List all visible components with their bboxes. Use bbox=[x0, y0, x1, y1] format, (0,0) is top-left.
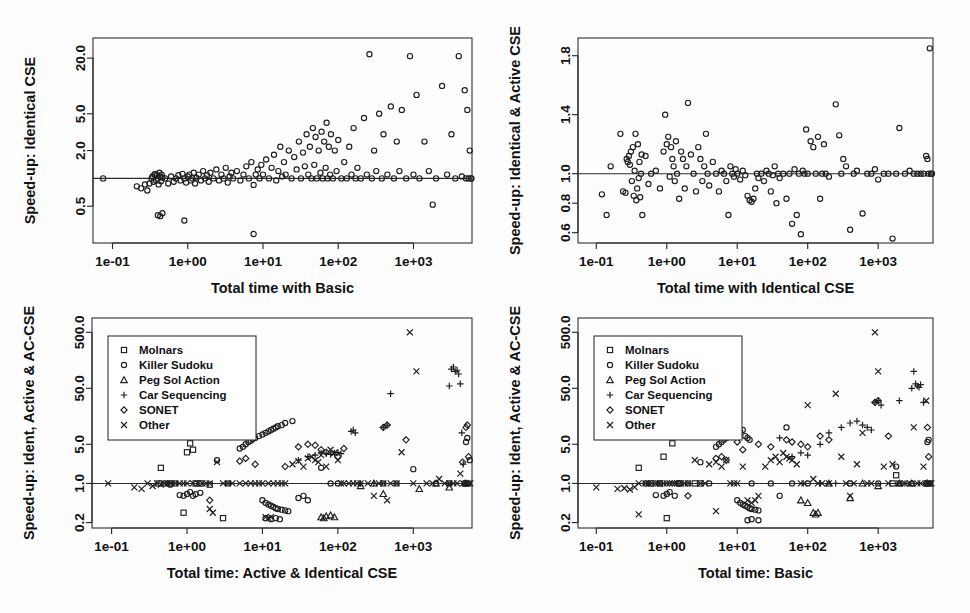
x-tick-label: 1e+03 bbox=[394, 254, 432, 269]
legend-label: Peg Sol Action bbox=[625, 374, 706, 386]
y-axis-title: Speed-up: Identical & Active CSE bbox=[507, 26, 523, 255]
x-axis-title: Total time with Identical CSE bbox=[657, 280, 854, 296]
y-tick-label: 0.5 bbox=[74, 196, 89, 215]
y-axis-title: Speed-up: Ident, Active & AC-CSE bbox=[507, 306, 523, 540]
x-tick-label: 1e-01 bbox=[579, 254, 614, 269]
data-points bbox=[599, 46, 934, 241]
legend[interactable]: MolnarsKiller SudokuPeg Sol ActionCar Se… bbox=[594, 336, 742, 440]
panel-bottom-left: 1e-011e+001e+011e+021e+03Total time: Act… bbox=[0, 306, 485, 613]
y-tick-label: 1.0 bbox=[559, 164, 574, 183]
panel-top-right: 1e-011e+001e+011e+021e+03Total time with… bbox=[485, 0, 970, 306]
x-tick-label: 1e+00 bbox=[648, 254, 686, 269]
x-tick-label: 1e-01 bbox=[94, 539, 129, 554]
x-axis-title: Total time: Basic bbox=[698, 565, 813, 581]
y-tick-label: 0.8 bbox=[559, 193, 574, 212]
chart-bottom-right: 1e-011e+001e+011e+021e+03Total time: Bas… bbox=[485, 306, 970, 613]
y-tick-label: 2.0 bbox=[74, 141, 89, 160]
x-axis: 1e-011e+001e+011e+021e+03 bbox=[94, 528, 432, 554]
y-axis-title: Speed-up: Identical CSE bbox=[22, 56, 38, 224]
x-axis-title: Total time: Active & Identical CSE bbox=[167, 565, 398, 581]
y-tick-label: 1.8 bbox=[559, 46, 574, 65]
x-tick-label: 1e+02 bbox=[319, 254, 357, 269]
plot-box bbox=[578, 38, 933, 243]
x-axis: 1e-011e+001e+011e+021e+03 bbox=[579, 243, 898, 269]
legend-label: SONET bbox=[139, 404, 179, 416]
panel-top-left: 1e-011e+001e+011e+021e+03Total time with… bbox=[0, 0, 485, 306]
y-tick-label: 500.0 bbox=[559, 315, 574, 349]
legend-label: Car Sequencing bbox=[139, 389, 227, 401]
x-tick-label: 1e+03 bbox=[859, 254, 897, 269]
chart-top-left: 1e-011e+001e+011e+021e+03Total time with… bbox=[0, 0, 485, 306]
plot-box bbox=[93, 38, 472, 243]
y-tick-label: 0.2 bbox=[559, 513, 574, 532]
x-tick-label: 1e+03 bbox=[859, 539, 897, 554]
x-tick-label: 1e-01 bbox=[95, 254, 130, 269]
chart-top-right: 1e-011e+001e+011e+021e+03Total time with… bbox=[485, 0, 970, 306]
x-axis: 1e-011e+001e+011e+021e+03 bbox=[95, 243, 433, 269]
y-tick-label: 1.0 bbox=[73, 474, 88, 493]
x-tick-label: 1e+02 bbox=[789, 254, 827, 269]
x-tick-label: 1e+00 bbox=[168, 539, 206, 554]
x-tick-label: 1e+01 bbox=[244, 254, 282, 269]
x-tick-label: 1e+01 bbox=[718, 254, 756, 269]
y-tick-label: 500.0 bbox=[73, 315, 88, 349]
chart-bottom-left: 1e-011e+001e+011e+021e+03Total time: Act… bbox=[0, 306, 485, 613]
legend-label: Other bbox=[139, 419, 170, 431]
panel-bottom-right: 1e-011e+001e+011e+021e+03Total time: Bas… bbox=[485, 306, 970, 613]
data-points bbox=[101, 52, 475, 237]
x-tick-label: 1e-01 bbox=[579, 539, 614, 554]
x-tick-label: 1e+00 bbox=[648, 539, 686, 554]
legend-label: SONET bbox=[625, 404, 665, 416]
y-tick-label: 5.0 bbox=[73, 435, 88, 454]
y-axis: 0.52.05.020.0 bbox=[74, 45, 94, 216]
y-axis: 0.60.81.01.41.8 bbox=[559, 46, 579, 242]
legend-label: Peg Sol Action bbox=[139, 374, 220, 386]
y-axis: 0.21.05.050.0500.0 bbox=[559, 315, 579, 532]
y-tick-label: 0.6 bbox=[559, 223, 574, 242]
x-tick-label: 1e+02 bbox=[319, 539, 357, 554]
legend-label: Killer Sudoku bbox=[139, 359, 213, 371]
y-tick-label: 1.0 bbox=[559, 474, 574, 493]
legend-label: Killer Sudoku bbox=[625, 359, 699, 371]
legend-label: Car Sequencing bbox=[625, 389, 713, 401]
y-axis-title: Speed-up: Ident, Active & AC-CSE bbox=[21, 306, 37, 540]
y-tick-label: 1.4 bbox=[559, 105, 574, 124]
legend-label: Other bbox=[625, 419, 656, 431]
y-tick-label: 20.0 bbox=[74, 45, 89, 71]
legend[interactable]: MolnarsKiller SudokuPeg Sol ActionCar Se… bbox=[108, 336, 256, 440]
y-tick-label: 0.2 bbox=[73, 513, 88, 532]
figure-canvas: 1e-011e+001e+011e+021e+03Total time with… bbox=[0, 0, 970, 613]
legend-label: Molnars bbox=[625, 344, 669, 356]
y-tick-label: 50.0 bbox=[73, 375, 88, 401]
x-axis-title: Total time with Basic bbox=[211, 280, 354, 296]
y-tick-label: 50.0 bbox=[559, 375, 574, 401]
x-tick-label: 1e+01 bbox=[243, 539, 281, 554]
legend-label: Molnars bbox=[139, 344, 183, 356]
y-tick-label: 5.0 bbox=[74, 104, 89, 123]
x-tick-label: 1e+00 bbox=[169, 254, 207, 269]
x-tick-label: 1e+03 bbox=[394, 539, 432, 554]
x-tick-label: 1e+02 bbox=[789, 539, 827, 554]
y-tick-label: 5.0 bbox=[559, 435, 574, 454]
x-tick-label: 1e+01 bbox=[718, 539, 756, 554]
y-axis: 0.21.05.050.0500.0 bbox=[73, 315, 93, 532]
x-axis: 1e-011e+001e+011e+021e+03 bbox=[579, 528, 898, 554]
